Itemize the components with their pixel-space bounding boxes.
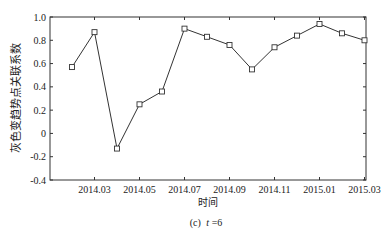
x-tick-label: 2014.09 xyxy=(213,184,246,195)
y-tick-label: 0.4 xyxy=(34,81,47,92)
data-point-marker xyxy=(137,102,142,107)
y-axis-label: 灰色变趋势点关联系数 xyxy=(9,43,22,153)
caption-prefix: (c) xyxy=(190,217,201,229)
data-point-marker xyxy=(70,65,75,70)
data-point-marker xyxy=(182,26,187,31)
y-tick-label: 0.8 xyxy=(34,35,47,46)
x-axis-label: 时间 xyxy=(198,196,218,208)
y-tick-label: 0 xyxy=(41,128,46,139)
x-tick-label: 2015.01 xyxy=(303,184,336,195)
y-tick-label: 0.6 xyxy=(34,58,47,69)
data-point-marker xyxy=(340,31,345,36)
x-tick-label: 2014.07 xyxy=(168,184,201,195)
data-point-marker xyxy=(160,89,165,94)
data-point-marker xyxy=(250,67,255,72)
data-point-marker xyxy=(272,45,277,50)
y-tick-label: 1.0 xyxy=(34,12,47,23)
caption-equation: =6 xyxy=(212,217,223,228)
data-point-marker xyxy=(227,42,232,47)
plot-frame xyxy=(50,17,366,180)
data-point-marker xyxy=(92,30,97,35)
data-point-marker xyxy=(205,34,210,39)
y-tick-label: 0.2 xyxy=(34,105,47,116)
data-point-marker xyxy=(362,38,367,43)
figure-caption: (c) t =6 xyxy=(190,217,223,229)
data-point-marker xyxy=(295,33,300,38)
x-tick-label: 2014.03 xyxy=(78,184,111,195)
x-tick-label: 2014.05 xyxy=(123,184,156,195)
x-tick-label: 2015.03 xyxy=(348,184,381,195)
caption-variable: t xyxy=(206,217,209,228)
data-point-marker xyxy=(317,21,322,26)
x-tick-label: 2014.11 xyxy=(258,184,290,195)
data-point-marker xyxy=(115,146,120,151)
series-line xyxy=(72,24,365,149)
y-tick-label: -0.4 xyxy=(30,175,46,186)
y-tick-label: -0.2 xyxy=(30,151,46,162)
line-chart: -0.4-0.200.20.40.60.81.0 2014.032014.052… xyxy=(0,0,388,235)
